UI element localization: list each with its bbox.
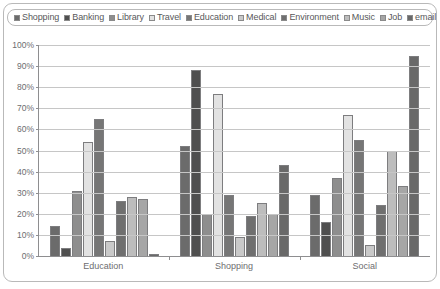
bar-shopping-travel[interactable] — [213, 94, 223, 256]
x-axis-label-social: Social — [299, 261, 430, 277]
gridline — [39, 172, 430, 173]
x-axis-label-education: Education — [38, 261, 169, 277]
legend-swatch-icon — [344, 15, 350, 21]
legend-label: email — [415, 13, 436, 22]
legend-item-music[interactable]: Music — [344, 13, 375, 22]
gridline — [39, 108, 430, 109]
chart-screenshot: ShoppingBankingLibraryTravelEducationMed… — [0, 0, 440, 289]
legend-swatch-icon — [64, 15, 70, 21]
gridline — [39, 193, 430, 194]
legend-item-travel[interactable]: Travel — [149, 13, 181, 22]
bar-shopping-education[interactable] — [224, 195, 234, 256]
gridline — [39, 214, 430, 215]
bar-social-medical[interactable] — [365, 245, 375, 256]
gridline — [39, 129, 430, 130]
y-axis-tick-80: 80% — [17, 82, 34, 92]
bar-education-medical[interactable] — [105, 241, 115, 256]
legend-item-education[interactable]: Education — [186, 13, 233, 22]
chart-axes — [38, 45, 430, 257]
bar-social-shopping[interactable] — [310, 195, 320, 256]
bar-education-music[interactable] — [127, 197, 137, 256]
legend-swatch-icon — [109, 15, 115, 21]
legend-label: Library — [117, 13, 144, 22]
bar-education-shopping[interactable] — [50, 226, 60, 256]
bar-education-banking[interactable] — [61, 248, 71, 256]
bar-social-education[interactable] — [354, 140, 364, 256]
legend-swatch-icon — [149, 15, 155, 21]
bar-education-travel[interactable] — [83, 142, 93, 256]
legend-label: Banking — [72, 13, 104, 22]
y-axis-tick-40: 40% — [17, 167, 34, 177]
gridline — [39, 235, 430, 236]
legend-label: Medical — [246, 13, 276, 22]
legend-label: Travel — [157, 13, 181, 22]
bar-social-email[interactable] — [409, 56, 419, 256]
y-axis-tickmark — [36, 256, 39, 257]
y-axis-tick-100: 100% — [12, 40, 34, 50]
y-axis-tickmark — [36, 172, 39, 173]
y-axis-tickmark — [36, 45, 39, 46]
legend-swatch-icon — [281, 15, 287, 21]
legend-swatch-icon — [186, 15, 192, 21]
legend-item-environment[interactable]: Environment — [281, 13, 338, 22]
legend-item-medical[interactable]: Medical — [238, 13, 276, 22]
bar-shopping-email[interactable] — [279, 165, 289, 256]
y-axis-tickmark — [36, 214, 39, 215]
legend-item-job[interactable]: Job — [380, 13, 402, 22]
legend-swatch-icon — [407, 15, 413, 21]
legend-swatch-icon — [238, 15, 244, 21]
bar-shopping-medical[interactable] — [235, 237, 245, 256]
y-axis-tick-0: 0% — [22, 251, 34, 261]
y-axis-tickmark — [36, 87, 39, 88]
bar-social-music[interactable] — [387, 151, 397, 257]
legend-label: Job — [388, 13, 402, 22]
x-axis-category-labels: EducationShoppingSocial — [38, 261, 430, 277]
y-axis-tick-90: 90% — [17, 61, 34, 71]
legend-item-shopping[interactable]: Shopping — [14, 13, 59, 22]
y-axis-tick-10: 10% — [17, 230, 34, 240]
bar-education-job[interactable] — [138, 199, 148, 256]
bar-education-library[interactable] — [72, 191, 82, 256]
y-axis-tickmark — [36, 235, 39, 236]
y-axis-tickmark — [36, 193, 39, 194]
gridline — [39, 45, 430, 46]
legend-swatch-icon — [14, 15, 20, 21]
gridline — [39, 66, 430, 67]
bar-education-email[interactable] — [149, 254, 159, 256]
legend-swatch-icon — [380, 15, 386, 21]
legend-label: Shopping — [22, 13, 59, 22]
legend-label: Environment — [289, 13, 338, 22]
y-axis-tickmark — [36, 151, 39, 152]
chart-plot-area: 0%10%20%30%40%50%60%70%80%90%100% Educat… — [7, 34, 433, 279]
y-axis-tickmark — [36, 108, 39, 109]
x-axis-label-shopping: Shopping — [169, 261, 300, 277]
gridline — [39, 87, 430, 88]
chart-legend: ShoppingBankingLibraryTravelEducationMed… — [7, 9, 433, 26]
y-axis-tick-30: 30% — [17, 188, 34, 198]
bar-social-job[interactable] — [398, 186, 408, 256]
y-axis-tick-labels: 0%10%20%30%40%50%60%70%80%90%100% — [7, 34, 37, 250]
legend-item-banking[interactable]: Banking — [64, 13, 104, 22]
bar-shopping-banking[interactable] — [191, 70, 201, 256]
y-axis-tickmark — [36, 129, 39, 130]
legend-item-email[interactable]: email — [407, 13, 436, 22]
bar-shopping-shopping[interactable] — [180, 146, 190, 256]
y-axis-tick-20: 20% — [17, 209, 34, 219]
y-axis-tickmark — [36, 66, 39, 67]
y-axis-tick-50: 50% — [17, 146, 34, 156]
bar-education-environment[interactable] — [116, 201, 126, 256]
bar-shopping-music[interactable] — [257, 203, 267, 256]
bar-social-library[interactable] — [332, 178, 342, 256]
bar-shopping-environment[interactable] — [246, 216, 256, 256]
y-axis-tick-60: 60% — [17, 124, 34, 134]
legend-label: Music — [352, 13, 375, 22]
bar-social-banking[interactable] — [321, 222, 331, 256]
legend-label: Education — [194, 13, 233, 22]
legend-item-library[interactable]: Library — [109, 13, 144, 22]
gridline — [39, 151, 430, 152]
y-axis-tick-70: 70% — [17, 103, 34, 113]
